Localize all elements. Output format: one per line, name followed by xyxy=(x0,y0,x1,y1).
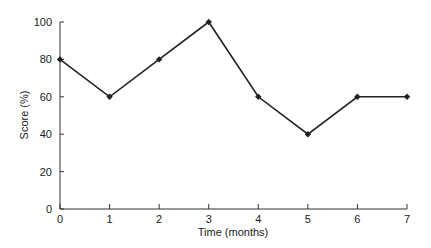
x-tick-label: 2 xyxy=(156,213,162,225)
x-tick-label: 0 xyxy=(57,213,63,225)
data-markers xyxy=(57,19,410,138)
tick-labels: 01234567020406080100 xyxy=(34,16,410,225)
x-tick-label: 5 xyxy=(305,213,311,225)
x-tick-label: 4 xyxy=(255,213,261,225)
x-tick-label: 3 xyxy=(206,213,212,225)
y-tick-label: 20 xyxy=(40,166,52,178)
y-tick-label: 40 xyxy=(40,128,52,140)
axes xyxy=(60,22,407,209)
x-tick-label: 1 xyxy=(107,213,113,225)
x-tick-label: 6 xyxy=(354,213,360,225)
x-tick-label: 7 xyxy=(404,213,410,225)
y-tick-label: 100 xyxy=(34,16,52,28)
diamond-marker xyxy=(404,94,410,100)
y-tick-label: 60 xyxy=(40,91,52,103)
x-axis-label: Time (months) xyxy=(198,226,269,238)
y-tick-label: 80 xyxy=(40,53,52,65)
y-axis-label: Score (%) xyxy=(18,91,30,140)
line-chart: 01234567020406080100 Time (months) Score… xyxy=(0,0,431,248)
y-tick-label: 0 xyxy=(46,203,52,215)
data-line xyxy=(60,22,407,134)
